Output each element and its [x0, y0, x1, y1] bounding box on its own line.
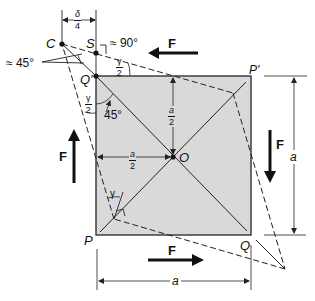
- label-c: C: [46, 37, 55, 50]
- label-gamma-half-top: γ 2: [116, 57, 123, 78]
- label-q-prime: Q': [80, 73, 93, 86]
- label-gamma-half-left: γ 2: [85, 94, 92, 115]
- force-arrow-right: [264, 130, 276, 183]
- label-gamma: γ: [110, 189, 115, 199]
- shear-diagram: C S Q' P' O P Q ≈ 45° ≈ 90° 45° γ γ 2 γ …: [0, 0, 315, 301]
- point-o: [170, 154, 175, 159]
- label-force-top: F: [168, 37, 176, 50]
- label-delta-quarter: δ 4: [74, 10, 81, 31]
- label-a-bottom: a: [170, 275, 181, 287]
- label-force-left: F: [59, 150, 67, 163]
- label-q: Q: [240, 239, 250, 252]
- label-a-half-vertical: a 2: [168, 106, 175, 127]
- label-a-right: a: [290, 150, 297, 164]
- label-approx-90: ≈ 90°: [110, 37, 138, 49]
- label-force-bottom: F: [168, 244, 176, 257]
- label-force-right: F: [276, 138, 284, 151]
- label-p: P: [84, 234, 93, 247]
- label-approx-45: ≈ 45°: [6, 57, 34, 69]
- label-a-half-horizontal: a 2: [129, 150, 136, 171]
- label-s: S: [86, 37, 95, 50]
- line-q-far: [256, 240, 285, 269]
- label-p-prime: P': [249, 64, 259, 76]
- force-arrow-left: [68, 129, 80, 183]
- label-45: 45°: [104, 109, 122, 121]
- label-o: O: [179, 151, 189, 164]
- force-arrow-bottom: [148, 254, 204, 266]
